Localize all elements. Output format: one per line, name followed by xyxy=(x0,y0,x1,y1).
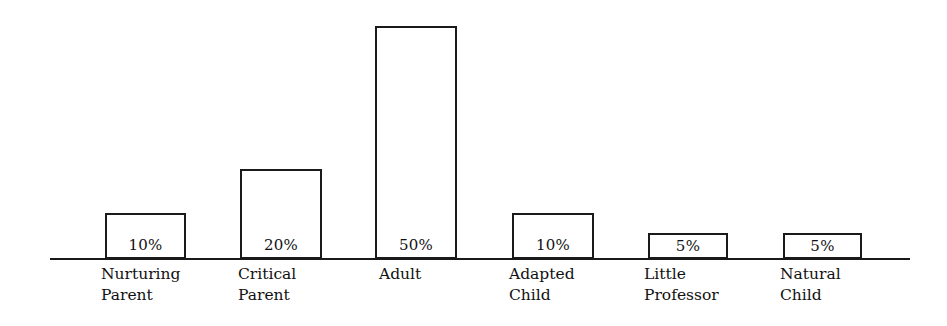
category-label-line1: Nurturing xyxy=(101,265,180,283)
category-label-line2: Parent xyxy=(101,285,180,306)
bar-adult xyxy=(375,26,457,259)
bar-value-natural-child: 5% xyxy=(783,239,862,254)
category-label-line2: Child xyxy=(780,285,841,306)
category-label-line1: Little xyxy=(644,265,686,283)
category-label-line2: Professor xyxy=(644,285,719,306)
category-label-line2: Parent xyxy=(238,285,296,306)
category-label-little-professor: Little Professor xyxy=(644,264,719,306)
category-label-line1: Critical xyxy=(238,265,296,283)
bar-value-nurturing-parent: 10% xyxy=(105,238,186,253)
bar-value-adult: 50% xyxy=(375,238,457,253)
category-label-natural-child: Natural Child xyxy=(780,264,841,306)
bar-value-little-professor: 5% xyxy=(648,239,728,254)
category-label-adapted-child: Adapted Child xyxy=(509,264,575,306)
bar-chart: 10% Nurturing Parent 20% Critical Parent… xyxy=(0,0,947,326)
category-label-line1: Adult xyxy=(379,265,421,283)
category-label-nurturing-parent: Nurturing Parent xyxy=(101,264,180,306)
category-label-critical-parent: Critical Parent xyxy=(238,264,296,306)
category-label-line1: Adapted xyxy=(509,265,575,283)
category-label-adult: Adult xyxy=(379,264,421,285)
category-label-line2: Child xyxy=(509,285,575,306)
category-label-line1: Natural xyxy=(780,265,841,283)
bar-value-adapted-child: 10% xyxy=(512,238,594,253)
bar-value-critical-parent: 20% xyxy=(240,238,322,253)
